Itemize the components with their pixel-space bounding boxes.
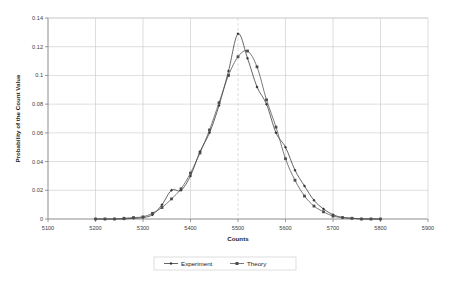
x-axis-tick-label: 5700	[327, 225, 339, 231]
data-point-marker	[313, 205, 316, 208]
legend-label: Experiment	[181, 260, 213, 267]
y-axis-tick-label: 0	[40, 216, 43, 222]
y-axis-tick-label: 0.08	[32, 101, 43, 107]
data-point-marker	[360, 218, 363, 221]
y-axis-tick-label: 0.04	[32, 159, 43, 165]
data-point-marker	[113, 218, 116, 221]
data-point-marker	[332, 215, 335, 218]
chart-container: 00.020.040.060.080.10.120.14 51005200530…	[0, 0, 450, 282]
x-axis-tick-label: 5900	[422, 225, 434, 231]
data-point-marker	[303, 195, 306, 198]
data-point-marker	[142, 215, 145, 218]
x-axis-tick-label: 5300	[137, 225, 149, 231]
data-point-marker	[94, 218, 97, 221]
data-point-marker	[370, 218, 373, 221]
data-point-marker	[341, 216, 344, 219]
y-axis-tick-label: 0.12	[32, 44, 43, 50]
data-point-marker	[256, 65, 259, 68]
data-point-marker	[151, 212, 154, 215]
data-point-marker	[170, 198, 173, 201]
data-point-marker	[351, 217, 354, 220]
x-axis-tick-label: 5200	[89, 225, 101, 231]
data-point-marker	[199, 152, 202, 155]
x-axis-title: Counts	[227, 235, 249, 242]
data-point-marker	[275, 126, 278, 129]
x-axis-tick-label: 5400	[184, 225, 196, 231]
y-axis-tick-label: 0.1	[35, 72, 43, 78]
chart-legend: ExperimentTheory	[154, 257, 296, 270]
data-point-marker	[265, 98, 268, 101]
y-axis-tick-label: 0.14	[32, 15, 43, 21]
x-axis-tick-label: 5800	[374, 225, 386, 231]
x-axis-tick-label: 5100	[42, 225, 54, 231]
x-axis-tick-label: 5600	[279, 225, 291, 231]
data-point-marker	[161, 206, 164, 209]
y-axis-title: Probability of the Count Value	[14, 74, 21, 163]
data-point-marker	[322, 210, 325, 213]
data-point-marker	[227, 74, 230, 77]
probability-distribution-chart: 00.020.040.060.080.10.120.14 51005200530…	[0, 0, 450, 282]
data-point-marker	[104, 218, 107, 221]
chart-background	[0, 0, 450, 282]
data-point-marker	[284, 157, 287, 160]
data-point-marker	[132, 216, 135, 219]
data-point-marker	[208, 129, 211, 132]
data-point-marker	[237, 55, 240, 58]
data-point-marker	[379, 218, 382, 221]
y-axis-tick-label: 0.02	[32, 187, 43, 193]
data-point-marker	[189, 172, 192, 175]
data-point-marker	[180, 187, 183, 190]
data-point-marker	[246, 50, 249, 53]
legend-marker	[236, 262, 239, 265]
data-point-marker	[123, 217, 126, 220]
x-axis-tick-label: 5500	[232, 225, 244, 231]
data-point-marker	[294, 179, 297, 182]
y-axis-tick-label: 0.06	[32, 130, 43, 136]
legend-label: Theory	[247, 260, 267, 267]
data-point-marker	[218, 101, 221, 104]
